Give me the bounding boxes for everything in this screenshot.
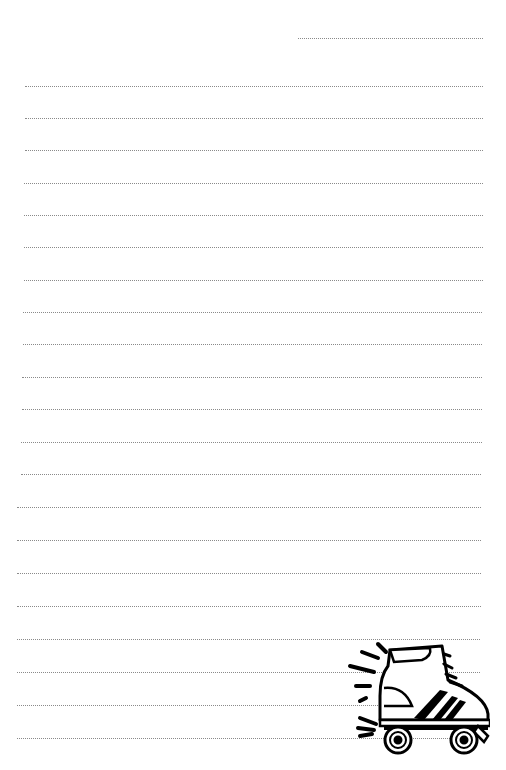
ruled-line bbox=[23, 312, 482, 313]
ruled-line bbox=[24, 183, 483, 184]
ruled-line bbox=[24, 280, 483, 281]
ruled-line bbox=[17, 606, 481, 607]
ruled-line bbox=[21, 442, 482, 443]
ruled-line bbox=[17, 507, 481, 508]
ruled-line bbox=[24, 247, 483, 248]
ruled-line bbox=[21, 474, 481, 475]
ruled-line bbox=[25, 150, 483, 151]
roller-skate-icon bbox=[340, 636, 490, 758]
ruled-line bbox=[22, 377, 482, 378]
ruled-line bbox=[23, 344, 482, 345]
ruled-line bbox=[17, 573, 481, 574]
ruled-line bbox=[24, 215, 483, 216]
ruled-line bbox=[25, 118, 483, 119]
ruled-line bbox=[22, 409, 482, 410]
header-line bbox=[298, 38, 483, 39]
ruled-line bbox=[25, 86, 483, 87]
ruled-line bbox=[17, 540, 481, 541]
